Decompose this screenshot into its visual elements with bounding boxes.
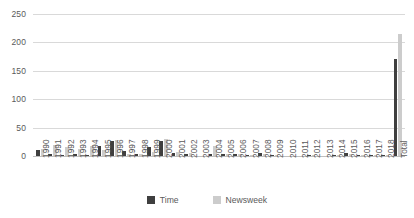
x-tick-slot: 2015 [342, 157, 354, 191]
x-tick-slot: 2012 [305, 157, 317, 191]
bar-group [46, 14, 58, 156]
bar-group [268, 14, 280, 156]
bar-group [108, 14, 120, 156]
bar-group [194, 14, 206, 156]
bar-group [318, 14, 330, 156]
x-tick-label: Total [401, 140, 409, 158]
x-tick-label: 2010 [290, 139, 298, 158]
x-tick-label: 1995 [105, 139, 113, 158]
x-tick-label: 1991 [56, 139, 64, 158]
bar-chart: 050100150200250 199019911992199319941995… [0, 0, 414, 218]
chart-legend: TimeNewsweek [0, 196, 414, 205]
y-tick-label: 250 [12, 10, 26, 19]
x-tick-label: 2000 [167, 139, 175, 158]
x-tick-label: 1997 [130, 139, 138, 158]
y-tick-label: 200 [12, 38, 26, 47]
x-tick-label: 2009 [278, 139, 286, 158]
x-tick-slot: 1990 [34, 157, 46, 191]
x-tick-slot: 2008 [256, 157, 268, 191]
x-tick-slot: 2005 [219, 157, 231, 191]
x-tick-label: 2015 [352, 139, 360, 158]
x-tick-slot: 2004 [207, 157, 219, 191]
y-tick-label: 100 [12, 95, 26, 104]
x-tick-label: 2018 [389, 139, 397, 158]
x-tick-label: 1993 [80, 139, 88, 158]
x-tick-slot: 1995 [96, 157, 108, 191]
bar-group [367, 14, 379, 156]
y-tick-label: 0 [21, 152, 26, 161]
bar-group [293, 14, 305, 156]
bar-group [145, 14, 157, 156]
x-tick-label: 2004 [216, 139, 224, 158]
x-tick-slot: 2016 [355, 157, 367, 191]
x-tick-slot: 2002 [182, 157, 194, 191]
x-tick-slot: 2006 [231, 157, 243, 191]
x-tick-label: 2005 [228, 139, 236, 158]
y-tick-label: 50 [16, 123, 26, 132]
x-tick-label: 2008 [265, 139, 273, 158]
x-tick-label: 2013 [327, 139, 335, 158]
x-tick-slot: 1994 [83, 157, 95, 191]
y-axis-tick-labels: 050100150200250 [0, 14, 30, 156]
x-tick-label: 2011 [302, 140, 310, 158]
legend-label-newsweek: Newsweek [226, 196, 268, 205]
x-tick-slot: 1996 [108, 157, 120, 191]
bar-group [71, 14, 83, 156]
x-tick-slot: 1997 [120, 157, 132, 191]
x-tick-label: 1998 [142, 139, 150, 158]
bar-group [342, 14, 354, 156]
bar-group [355, 14, 367, 156]
bar-group [133, 14, 145, 156]
bar-group [219, 14, 231, 156]
bar-group [59, 14, 71, 156]
bar-time-1990 [36, 150, 40, 156]
bar-group [231, 14, 243, 156]
bar-group [120, 14, 132, 156]
legend-item-newsweek[interactable]: Newsweek [213, 196, 268, 205]
x-tick-label: 2012 [315, 139, 323, 158]
x-tick-slot: 2009 [268, 157, 280, 191]
x-tick-label: 2003 [204, 139, 212, 158]
x-tick-label: 1990 [43, 139, 51, 158]
x-tick-slot: 2013 [318, 157, 330, 191]
bar-group [207, 14, 219, 156]
bar-group [34, 14, 46, 156]
x-tick-label: 2017 [376, 139, 384, 158]
x-tick-slot: 2007 [244, 157, 256, 191]
x-tick-label: 1999 [154, 139, 162, 158]
x-tick-slot: 1998 [133, 157, 145, 191]
x-tick-slot: 2018 [379, 157, 391, 191]
x-tick-slot: 2000 [157, 157, 169, 191]
x-tick-slot: 1999 [145, 157, 157, 191]
bar-group [281, 14, 293, 156]
x-tick-slot: 1992 [59, 157, 71, 191]
bar-group [244, 14, 256, 156]
bar-group [157, 14, 169, 156]
x-tick-label: 2002 [191, 139, 199, 158]
bar-group [170, 14, 182, 156]
x-tick-slot: 2014 [330, 157, 342, 191]
x-tick-slot: 2011 [293, 157, 305, 191]
x-tick-label: 1992 [68, 139, 76, 158]
x-tick-label: 1996 [117, 139, 125, 158]
bar-newsweek-Total [398, 34, 402, 156]
legend-label-time: Time [160, 196, 179, 205]
x-tick-label: 2006 [241, 139, 249, 158]
x-tick-slot: 1993 [71, 157, 83, 191]
plot-area [33, 14, 405, 156]
bar-group [392, 14, 404, 156]
bar-group [182, 14, 194, 156]
x-tick-slot: 2010 [281, 157, 293, 191]
x-tick-slot: 2003 [194, 157, 206, 191]
x-tick-slot: Total [392, 157, 404, 191]
bar-group [379, 14, 391, 156]
bar-group [305, 14, 317, 156]
legend-item-time[interactable]: Time [147, 196, 179, 205]
x-axis-tick-labels: 1990199119921993199419951996199719981999… [33, 157, 405, 191]
x-tick-slot: 2017 [367, 157, 379, 191]
bar-group [256, 14, 268, 156]
legend-swatch-newsweek [213, 196, 221, 204]
x-tick-label: 2016 [364, 139, 372, 158]
bar-group [83, 14, 95, 156]
x-tick-label: 2001 [179, 139, 187, 158]
